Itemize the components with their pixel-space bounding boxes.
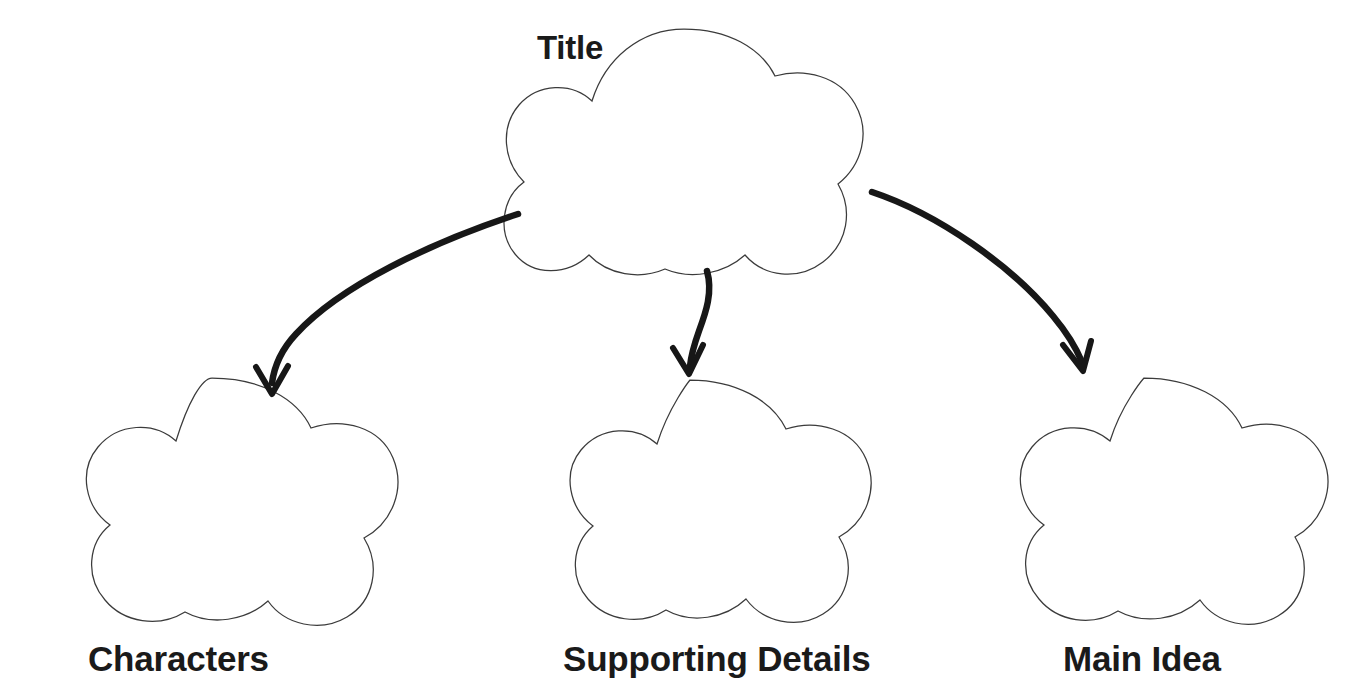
node-label-title: Title bbox=[537, 31, 603, 64]
node-label-characters: Characters bbox=[88, 641, 269, 676]
graphic-organizer-canvas: Title Characters Supporting Details Main… bbox=[0, 0, 1347, 697]
petal-shape-main-idea[interactable] bbox=[1020, 378, 1328, 624]
organizer-diagram bbox=[0, 0, 1347, 697]
petal-shape-characters[interactable] bbox=[86, 378, 398, 625]
arrow-to-characters bbox=[256, 214, 518, 394]
arrow-to-main-idea bbox=[872, 192, 1091, 371]
arrow-to-supporting-details bbox=[673, 271, 709, 374]
node-label-supporting-details: Supporting Details bbox=[563, 641, 871, 676]
arrow-to-characters-line bbox=[272, 214, 518, 383]
node-label-main-idea: Main Idea bbox=[1063, 641, 1221, 676]
petal-shape-supporting-details[interactable] bbox=[570, 380, 871, 622]
arrow-to-main-idea-line bbox=[872, 192, 1082, 362]
